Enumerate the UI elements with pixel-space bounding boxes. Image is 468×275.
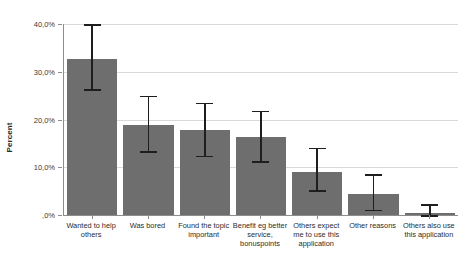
error-bar-cap-lower	[252, 161, 269, 163]
error-bar-cap-lower	[140, 151, 157, 153]
bar-group[interactable]	[233, 24, 289, 215]
x-category-label: Others also use this application	[401, 221, 457, 239]
x-tick-mark	[92, 215, 93, 219]
y-tick-mark	[58, 72, 62, 73]
error-bar-line	[260, 111, 262, 161]
y-tick-label: ,0%	[42, 211, 55, 220]
error-bar-line	[429, 204, 431, 215]
x-tick-mark	[373, 215, 374, 219]
y-tick-label: 20,0%	[34, 115, 55, 124]
y-tick-label: 30,0%	[34, 67, 55, 76]
x-tick-mark	[429, 215, 430, 219]
plot-area	[63, 24, 458, 216]
error-bar-cap-lower	[196, 156, 213, 158]
error-bar-cap-lower	[309, 190, 326, 192]
bar-group[interactable]	[402, 24, 458, 215]
y-tick-mark	[58, 167, 62, 168]
error-bar-cap-lower	[365, 210, 382, 212]
error-bar-line	[316, 148, 318, 190]
bar-group[interactable]	[64, 24, 120, 215]
bar-group[interactable]	[289, 24, 345, 215]
error-bar-cap-upper	[140, 96, 157, 98]
x-category-label: Wanted to help others	[63, 221, 119, 239]
x-category-label: Other reasons	[344, 221, 400, 230]
x-category-label: Benefit eg better service, bonuspoints	[232, 221, 288, 249]
x-category-label: Others expect me to use this application	[288, 221, 344, 249]
x-tick-mark	[260, 215, 261, 219]
error-bar-line	[91, 24, 93, 89]
bar-group[interactable]	[177, 24, 233, 215]
error-bar-cap-upper	[84, 24, 101, 26]
error-bar-cap-upper	[196, 103, 213, 105]
error-bar-cap-lower	[84, 89, 101, 91]
error-bar-cap-upper	[252, 111, 269, 113]
x-axis-category-labels: Wanted to help othersWas boredFound the …	[63, 221, 457, 271]
bar-series	[64, 24, 458, 215]
error-bar-cap-upper	[365, 174, 382, 176]
error-bar-line	[148, 96, 150, 151]
x-tick-mark	[148, 215, 149, 219]
y-tick-mark	[58, 215, 62, 216]
bar-chart: Percent 40,0%30,0%20,0%10,0%,0% Wanted t…	[0, 0, 468, 275]
bar-group[interactable]	[120, 24, 176, 215]
error-bar-line	[204, 103, 206, 156]
x-category-label: Was bored	[119, 221, 175, 230]
x-category-label: Found the topic important	[176, 221, 232, 239]
error-bar-cap-upper	[421, 204, 438, 206]
error-bar-cap-upper	[309, 148, 326, 150]
y-axis-tick-labels: 40,0%30,0%20,0%10,0%,0%	[0, 24, 58, 215]
x-tick-mark	[317, 215, 318, 219]
bar-group[interactable]	[345, 24, 401, 215]
y-tick-mark	[58, 24, 62, 25]
y-tick-mark	[58, 120, 62, 121]
error-bar-line	[373, 174, 375, 209]
y-tick-label: 10,0%	[34, 163, 55, 172]
x-tick-mark	[204, 215, 205, 219]
y-tick-label: 40,0%	[34, 20, 55, 29]
